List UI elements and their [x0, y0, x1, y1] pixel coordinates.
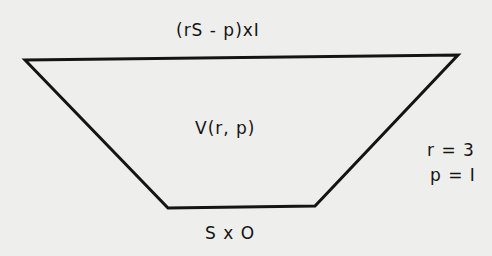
center-label: V(r, p) [195, 120, 255, 137]
parameter-r: r = 3 [427, 142, 475, 159]
top-edge-label: (rS - p)xI [176, 22, 260, 39]
parameter-p: p = I [430, 167, 476, 184]
bottom-edge-label: S x O [205, 225, 255, 242]
